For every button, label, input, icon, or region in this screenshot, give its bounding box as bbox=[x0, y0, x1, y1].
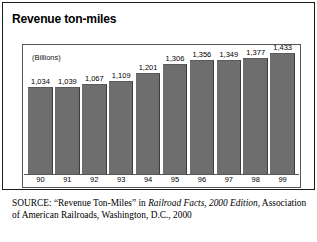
bar-value-label: 1,109 bbox=[112, 71, 131, 80]
bar bbox=[136, 73, 161, 174]
x-tick-96: 96 bbox=[190, 174, 215, 186]
bar bbox=[270, 53, 295, 174]
bar-column: 1,356 bbox=[190, 46, 215, 174]
bar bbox=[163, 64, 188, 174]
x-tick-90: 90 bbox=[28, 174, 53, 186]
bar-column: 1,039 bbox=[55, 46, 80, 174]
bar-value-label: 1,034 bbox=[31, 77, 50, 86]
source-text-part1: “Revenue Ton-Miles” in bbox=[52, 198, 149, 208]
x-tick-97: 97 bbox=[217, 174, 242, 186]
source-prefix: SOURCE: bbox=[12, 198, 52, 208]
bar-column: 1,349 bbox=[217, 46, 242, 174]
plot-area: (Billions) 1,0341,0391,0671,1091,2011,30… bbox=[22, 44, 301, 188]
x-tick-98: 98 bbox=[243, 174, 268, 186]
bar bbox=[82, 84, 107, 174]
bar bbox=[28, 87, 53, 174]
source-note: SOURCE: “Revenue Ton-Miles” in Railroad … bbox=[12, 197, 308, 222]
bar-column: 1,306 bbox=[163, 46, 188, 174]
x-tick-99: 99 bbox=[270, 174, 295, 186]
x-tick-94: 94 bbox=[136, 174, 161, 186]
bar-column: 1,433 bbox=[270, 46, 295, 174]
bar-value-label: 1,201 bbox=[139, 63, 158, 72]
x-axis-tick-labels: 90919293949596979899 bbox=[24, 174, 299, 186]
source-publication-title: Railroad Facts, 2000 Edition bbox=[148, 198, 258, 208]
bar-value-label: 1,349 bbox=[219, 50, 238, 59]
chart-figure: Revenue ton-miles (Billions) 1,0341,0391… bbox=[0, 0, 317, 242]
bar bbox=[190, 60, 215, 174]
bar-value-label: 1,067 bbox=[85, 74, 104, 83]
bar bbox=[109, 81, 134, 174]
x-tick-91: 91 bbox=[55, 174, 80, 186]
bar-value-label: 1,433 bbox=[273, 43, 292, 52]
chart-title: Revenue ton-miles bbox=[12, 11, 116, 26]
bar-column: 1,067 bbox=[82, 46, 107, 174]
bar-column: 1,377 bbox=[243, 46, 268, 174]
bar-column: 1,034 bbox=[28, 46, 53, 174]
bar-column: 1,201 bbox=[136, 46, 161, 174]
bar bbox=[217, 60, 242, 174]
bar bbox=[55, 87, 80, 174]
x-tick-92: 92 bbox=[82, 174, 107, 186]
x-tick-95: 95 bbox=[163, 174, 188, 186]
bar-value-label: 1,039 bbox=[58, 77, 77, 86]
bar-value-label: 1,356 bbox=[193, 50, 212, 59]
x-tick-93: 93 bbox=[109, 174, 134, 186]
bar bbox=[243, 58, 268, 174]
bar-series: 1,0341,0391,0671,1091,2011,3061,3561,349… bbox=[24, 46, 299, 174]
bar-value-label: 1,377 bbox=[246, 48, 265, 57]
bar-column: 1,109 bbox=[109, 46, 134, 174]
bar-value-label: 1,306 bbox=[166, 54, 185, 63]
